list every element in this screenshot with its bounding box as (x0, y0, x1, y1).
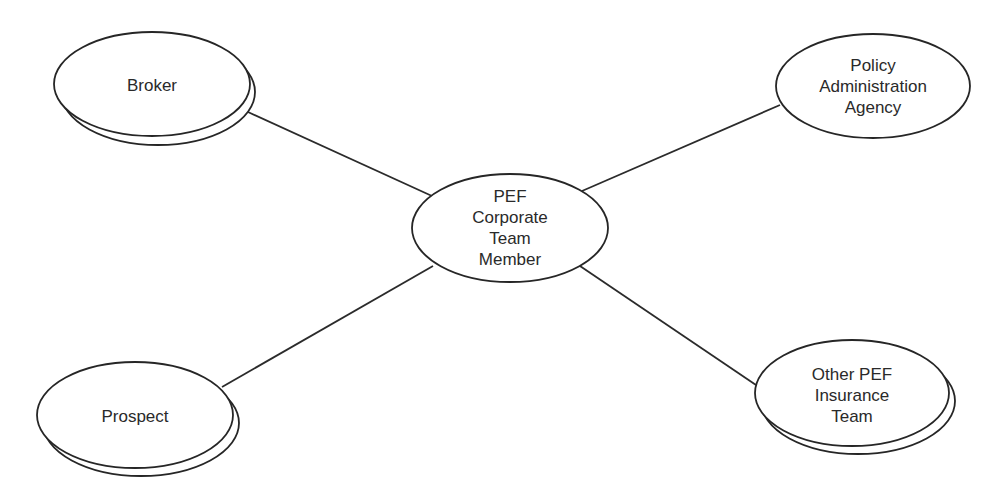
node-center-line-1: PEF (472, 186, 548, 207)
node-policy-label: Policy Administration Agency (819, 55, 927, 118)
node-broker-label: Broker (127, 75, 177, 96)
edge-policy-center (582, 105, 780, 191)
edge-other-center (580, 266, 756, 385)
node-policy-line-3: Agency (819, 97, 927, 118)
node-center-line-2: Corporate (472, 207, 548, 228)
edge-prospect-center (222, 266, 433, 387)
node-other-line-1: Other PEF (812, 364, 892, 385)
node-center-line-4: Member (472, 249, 548, 270)
node-policy-line-2: Administration (819, 76, 927, 97)
node-other-line-2: Insurance (812, 385, 892, 406)
node-center-label: PEF Corporate Team Member (472, 186, 548, 270)
node-broker-line-1: Broker (127, 75, 177, 96)
node-center-line-3: Team (472, 228, 548, 249)
node-policy-line-1: Policy (819, 55, 927, 76)
node-other-line-3: Team (812, 406, 892, 427)
node-prospect-label: Prospect (101, 406, 168, 427)
node-other-label: Other PEF Insurance Team (812, 364, 892, 427)
edge-broker-center (248, 112, 432, 196)
node-prospect-line-1: Prospect (101, 406, 168, 427)
